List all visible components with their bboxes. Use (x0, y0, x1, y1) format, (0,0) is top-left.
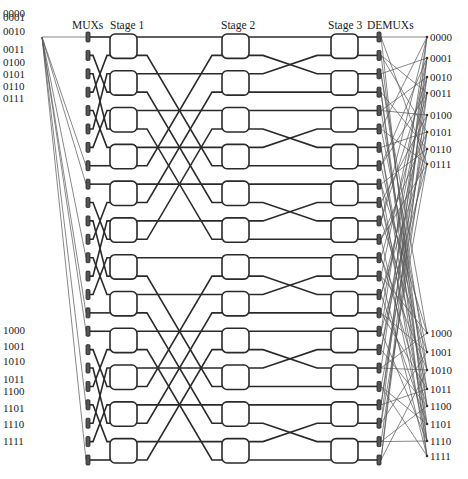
stage3-switch-node (331, 255, 358, 279)
stage2-switch-node (222, 402, 249, 426)
output-label-1110: 1110 (430, 435, 452, 447)
demux-bar (377, 234, 381, 244)
mux-bar (86, 87, 90, 97)
stage1-switch-node (110, 34, 137, 58)
mux-bar (86, 142, 90, 152)
stage2-switch-node (222, 328, 249, 352)
stage1-header: Stage 1 (110, 19, 144, 32)
demux-bar (377, 289, 381, 299)
stage1-switch-node (110, 218, 137, 242)
input-label-1100: 1100 (3, 385, 25, 397)
output-fanin-lines (381, 36, 428, 460)
demux-bar (377, 400, 381, 410)
demux-bar (377, 161, 381, 171)
stage2-header: Stage 2 (221, 19, 255, 32)
input-label-1001: 1001 (3, 340, 25, 352)
demux-bar (377, 179, 381, 189)
output-label-0100: 0100 (430, 109, 453, 121)
stage2-switch-node (222, 108, 249, 132)
stage3-switch-node (331, 291, 358, 315)
stage1-switch-node (110, 402, 137, 426)
stage1-switch-node (110, 439, 137, 463)
output-labels: 0000000100100011010001010110011110001001… (430, 31, 453, 462)
mux-bar (86, 271, 90, 281)
mux-bar (86, 363, 90, 373)
mux-bar (86, 289, 90, 299)
demux-bar (377, 69, 381, 79)
output-label-1100: 1100 (430, 400, 452, 412)
mux-bar (86, 437, 90, 447)
mux-bar (86, 32, 90, 42)
demux-bar (377, 381, 381, 391)
demux-bar (377, 271, 381, 281)
stage3-switch-node (331, 402, 358, 426)
mux-bar (86, 161, 90, 171)
input-label-1110: 1110 (3, 418, 25, 430)
mux-bar (86, 326, 90, 336)
stage1-switch-node (110, 108, 137, 132)
switching-network-diagram: MUXs Stage 1 Stage 2 Stage 3 DEMUXs 0000… (0, 0, 468, 479)
input-label-1011: 1011 (3, 373, 25, 385)
demux-bar (377, 418, 381, 428)
input-label-0011: 0011 (3, 43, 25, 55)
output-label-1111: 1111 (430, 450, 451, 462)
mux-bar (86, 69, 90, 79)
input-label-0100: 0100 (3, 56, 26, 68)
stage2-switch-node (222, 439, 249, 463)
mux-bar (86, 216, 90, 226)
output-label-1001: 1001 (430, 346, 452, 358)
stage3-switch-node (331, 439, 358, 463)
input-label-1010: 1010 (3, 355, 26, 367)
input-label-1000: 1000 (3, 324, 26, 336)
input-label-0010: 0010 (3, 25, 26, 37)
output-label-1000: 1000 (430, 327, 453, 339)
stage3-header: Stage 3 (328, 19, 362, 32)
demux-bar (377, 437, 381, 447)
stage3-switch-node (331, 181, 358, 205)
stage3-switch-node (331, 144, 358, 168)
demuxs-header: DEMUXs (367, 19, 414, 31)
demux-bar (377, 50, 381, 60)
demux-bar (377, 142, 381, 152)
input-label-0111: 0111 (3, 92, 24, 104)
output-label-0010: 0010 (430, 71, 453, 83)
mux-bar (86, 234, 90, 244)
output-label-0111: 0111 (430, 158, 451, 170)
stage2-switch-node (222, 291, 249, 315)
input-label-0110: 0110 (3, 80, 25, 92)
demux-bar (377, 198, 381, 208)
mux-bar (86, 106, 90, 116)
output-label-0000: 0000 (430, 31, 453, 43)
stage1-switch-node (110, 144, 137, 168)
stage3-switch-node (331, 218, 358, 242)
stage1-switch-node (110, 328, 137, 352)
input-label-1101: 1101 (3, 402, 25, 414)
mux-bar (86, 124, 90, 134)
stage3-switch-node (331, 365, 358, 389)
input-fanout-lines (42, 37, 86, 460)
output-label-1010: 1010 (430, 364, 453, 376)
stage3-switch-node (331, 108, 358, 132)
output-label-0101: 0101 (430, 126, 452, 138)
mux-bar (86, 198, 90, 208)
mux-bar (86, 400, 90, 410)
stage1-switch-node (110, 291, 137, 315)
stage2-switch-node (222, 71, 249, 95)
muxs-header: MUXs (72, 19, 104, 31)
output-label-0011: 0011 (430, 87, 452, 99)
demux-bar (377, 106, 381, 116)
mux-bar (86, 345, 90, 355)
demux-bar (377, 345, 381, 355)
output-label-1101: 1101 (430, 418, 452, 430)
interconnect-wires (90, 37, 377, 460)
stage3-switch-node (331, 328, 358, 352)
mux-bar (86, 308, 90, 318)
demux-bar (377, 326, 381, 336)
output-label-1011: 1011 (430, 383, 452, 395)
mux-bar (86, 381, 90, 391)
mux-bar (86, 418, 90, 428)
demux-bar (377, 87, 381, 97)
stage2-switch-node (222, 365, 249, 389)
input-labels: 0000000100100011010001010110011110001001… (3, 7, 26, 447)
demux-bar (377, 32, 381, 42)
